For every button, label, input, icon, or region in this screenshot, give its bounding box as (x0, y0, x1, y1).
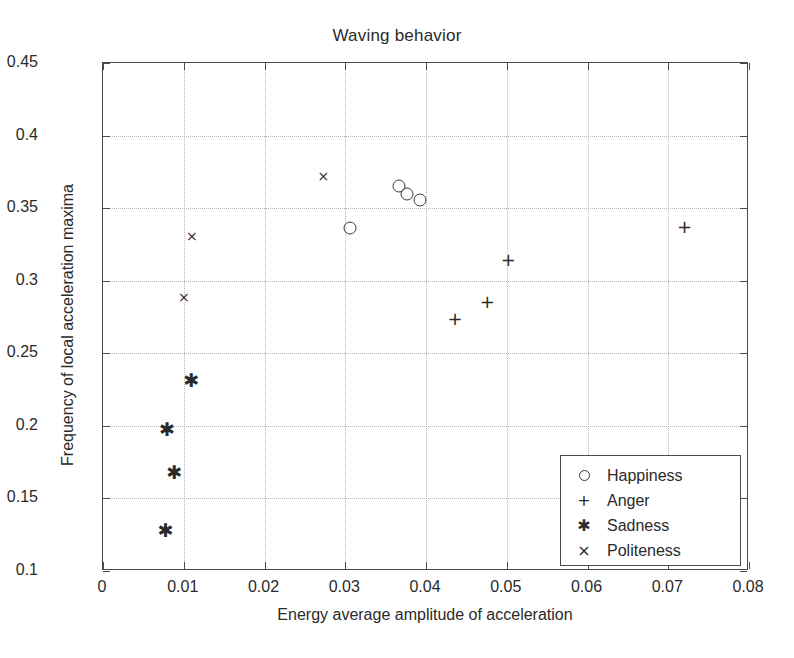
y-tick (740, 353, 747, 354)
y-tick-label: 0.45 (7, 53, 38, 71)
y-tick-label: 0.25 (7, 343, 38, 361)
x-tick (507, 63, 508, 70)
data-point-happiness (344, 221, 357, 234)
gridline-horizontal (103, 208, 747, 209)
x-tick (588, 63, 589, 70)
data-point-sadness: ✱ (167, 464, 182, 479)
data-point-anger: + (677, 218, 692, 233)
x-tick-label: 0.08 (732, 578, 763, 596)
x-tick (426, 63, 427, 70)
gridline-horizontal (103, 281, 747, 282)
y-tick-label: 0.3 (16, 271, 38, 289)
y-tick (103, 426, 110, 427)
gridline-vertical (184, 63, 185, 569)
legend-box: Happiness+Anger✱Sadness×Politeness (560, 455, 741, 566)
data-point-happiness (414, 194, 427, 207)
y-tick (103, 136, 110, 137)
y-tick (740, 571, 747, 572)
y-tick (103, 208, 110, 209)
figure-canvas: Waving behavior ++++✱✱✱✱××× 00.010.020.0… (0, 0, 794, 658)
x-tick-label: 0.03 (329, 578, 360, 596)
legend-label: Happiness (607, 467, 683, 485)
y-tick-label: 0.15 (7, 488, 38, 506)
data-point-anger: + (501, 251, 516, 266)
x-tick-label: 0.02 (248, 578, 279, 596)
y-tick (103, 498, 110, 499)
legend-item-happiness[interactable]: Happiness (561, 462, 740, 489)
y-tick-label: 0.35 (7, 198, 38, 216)
x-tick-label: 0.06 (571, 578, 602, 596)
x-tick (103, 562, 104, 569)
gridline-vertical (345, 63, 346, 569)
y-tick (740, 136, 747, 137)
data-point-happiness (401, 187, 414, 200)
chart-title: Waving behavior (0, 26, 794, 46)
x-tick (749, 562, 750, 569)
y-tick (740, 281, 747, 282)
data-point-politeness: × (176, 290, 191, 305)
gridline-vertical (507, 63, 508, 569)
gridline-vertical (426, 63, 427, 569)
legend-label: Sadness (607, 517, 669, 535)
gridline-horizontal (103, 426, 747, 427)
x-tick (184, 63, 185, 70)
data-point-politeness: × (184, 229, 199, 244)
x-tick (345, 562, 346, 569)
gridline-vertical (265, 63, 266, 569)
legend-label: Anger (607, 492, 650, 510)
x-tick-label: 0 (98, 578, 107, 596)
y-tick (103, 281, 110, 282)
data-point-anger: + (480, 294, 495, 309)
y-tick (103, 353, 110, 354)
data-point-sadness: ✱ (158, 522, 173, 537)
legend-item-sadness[interactable]: ✱Sadness (561, 512, 740, 539)
legend-item-politeness[interactable]: ×Politeness (561, 537, 740, 564)
legend-label: Politeness (607, 542, 681, 560)
y-tick (740, 426, 747, 427)
y-tick-label: 0.1 (16, 561, 38, 579)
y-tick (740, 63, 747, 64)
y-tick-label: 0.2 (16, 416, 38, 434)
x-tick (668, 63, 669, 70)
y-tick-label: 0.4 (16, 126, 38, 144)
x-tick (749, 63, 750, 70)
y-tick (103, 571, 110, 572)
x-tick (265, 63, 266, 70)
x-tick (426, 562, 427, 569)
x-tick (103, 63, 104, 70)
x-tick-label: 0.04 (409, 578, 440, 596)
data-point-sadness: ✱ (184, 373, 199, 388)
y-tick (103, 63, 110, 64)
legend-marker-politeness-icon: × (561, 541, 607, 560)
gridline-horizontal (103, 353, 747, 354)
y-axis-title: Frequency of local acceleration maxima (59, 71, 77, 579)
x-tick-label: 0.05 (490, 578, 521, 596)
x-tick-label: 0.01 (167, 578, 198, 596)
data-point-politeness: × (316, 169, 331, 184)
circle-icon (579, 470, 590, 481)
x-tick (507, 562, 508, 569)
legend-marker-happiness-icon (561, 466, 607, 485)
legend-marker-anger-icon: + (561, 491, 607, 510)
gridline-horizontal (103, 136, 747, 137)
y-tick (740, 498, 747, 499)
data-point-anger: + (448, 310, 463, 325)
legend-item-anger[interactable]: +Anger (561, 487, 740, 514)
x-tick (265, 562, 266, 569)
x-tick (345, 63, 346, 70)
x-tick (184, 562, 185, 569)
legend-marker-sadness-icon: ✱ (561, 516, 607, 535)
data-point-sadness: ✱ (159, 421, 174, 436)
y-tick (740, 208, 747, 209)
x-axis-title: Energy average amplitude of acceleration (102, 606, 748, 624)
x-tick-label: 0.07 (652, 578, 683, 596)
